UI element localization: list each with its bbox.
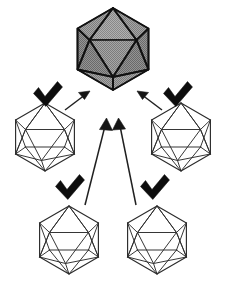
arrow-from-left-icosahedron [65, 91, 90, 110]
check-mark-icon-bottom-left [56, 175, 85, 200]
arrow-from-bottom-right-icosahedron [113, 118, 137, 205]
check-mark-icon-left [34, 82, 63, 107]
arrow-from-bottom-left-icosahedron [85, 118, 113, 205]
wireframe-icosahedron-bottom-right[interactable] [128, 206, 187, 274]
figure-container: Four wireframe icosahedra with check mar… [0, 0, 226, 297]
diagram-canvas [0, 0, 226, 297]
arrow-from-right-icosahedron [137, 91, 162, 110]
wireframe-icosahedron-left[interactable] [16, 103, 75, 171]
wireframe-icosahedron-bottom-left[interactable] [40, 206, 99, 274]
check-mark-icon-bottom-right [141, 175, 170, 200]
check-mark-icon-right [164, 82, 193, 107]
target-icosahedron[interactable] [78, 8, 149, 90]
wireframe-icosahedron-right[interactable] [152, 103, 211, 171]
